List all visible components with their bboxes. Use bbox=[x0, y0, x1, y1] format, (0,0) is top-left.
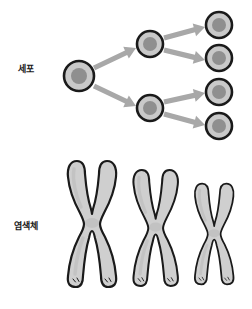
division-arrow bbox=[162, 21, 206, 45]
centromere bbox=[209, 229, 220, 237]
division-arrow bbox=[91, 42, 139, 74]
diagram-canvas bbox=[0, 0, 252, 309]
chromosome bbox=[68, 161, 116, 287]
cells-layer bbox=[64, 12, 232, 139]
cell-nucleus bbox=[143, 37, 157, 51]
cell-nucleus bbox=[212, 85, 226, 99]
cell bbox=[137, 31, 163, 57]
cell-nucleus bbox=[212, 119, 226, 133]
centromere bbox=[149, 222, 162, 231]
division-arrow bbox=[163, 87, 207, 109]
cell bbox=[206, 12, 232, 38]
centromere bbox=[85, 218, 99, 228]
cell-nucleus bbox=[143, 101, 157, 115]
division-arrow bbox=[162, 108, 206, 132]
cell bbox=[137, 95, 163, 121]
cell bbox=[206, 79, 232, 105]
chromosome-row-label: 염색체 bbox=[14, 222, 39, 231]
cell-nucleus bbox=[212, 51, 226, 65]
cell bbox=[206, 113, 232, 139]
cell-nucleus bbox=[71, 68, 87, 84]
chromosome bbox=[133, 170, 178, 286]
cell-row-label: 세포 bbox=[18, 65, 34, 74]
cell bbox=[64, 61, 94, 91]
figure-container: 세포 염색체 bbox=[0, 0, 252, 309]
cell bbox=[206, 45, 232, 71]
division-arrow bbox=[91, 80, 139, 112]
chromosome bbox=[195, 184, 234, 285]
chromosomes-layer bbox=[68, 161, 234, 287]
division-arrow bbox=[162, 44, 206, 67]
cell-nucleus bbox=[212, 18, 226, 32]
